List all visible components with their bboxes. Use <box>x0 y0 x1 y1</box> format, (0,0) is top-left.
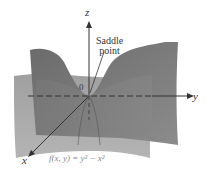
function-label: f(x, y) = y² − x² <box>49 154 105 163</box>
y-axis-label: y <box>193 91 198 102</box>
z-axis-label: z <box>85 7 89 18</box>
z-axis-arrow-icon <box>86 21 92 28</box>
origin-label: 0 <box>79 83 84 92</box>
saddle-point-annotation: Saddle point <box>96 36 123 56</box>
x-axis-label: x <box>22 155 27 166</box>
surface-plot <box>0 0 212 181</box>
saddle-label-line2: point <box>96 46 123 56</box>
saddle-surface-figure: z y x 0 Saddle point f(x, y) = y² − x² <box>0 0 212 181</box>
